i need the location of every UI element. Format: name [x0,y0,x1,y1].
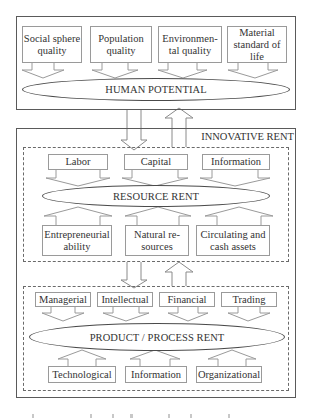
input-label: Managerial [39,294,87,306]
input-label: Material standard of life [228,27,286,63]
input-label: Intellectual [101,294,148,306]
input-label: Information [211,156,261,168]
input-label: Technological [52,369,111,381]
input-box-natural-resources: Natural re-sources [125,225,189,256]
input-box-information: Information [202,154,270,170]
cut-off-caption [90,414,92,418]
input-label: Organizational [198,369,260,381]
human-potential-ellipse: HUMAN POTENTIAL [22,78,290,101]
cut-off-caption [168,414,170,418]
input-label: Labor [65,156,90,168]
cut-off-caption [228,414,230,418]
ellipse-title: RESOURCE RENT [113,191,199,202]
input-box-labor: Labor [48,154,108,170]
input-box-information-product: Information [125,366,187,383]
input-label: Trading [233,294,266,306]
input-box-population-quality: Population quality [90,26,152,63]
input-label: Financial [167,294,206,306]
ellipse-title: HUMAN POTENTIAL [105,84,207,95]
cut-off-caption [32,414,34,418]
input-label: Information [131,369,181,381]
input-box-material-standard-of-life: Material standard of life [227,26,287,63]
input-box-environmental-quality: Environmen-tal quality [158,26,222,63]
ellipse-title: PRODUCT / PROCESS RENT [90,332,225,343]
input-label: Circulating and cash assets [197,229,269,253]
input-label: Entrepreneurial ability [43,229,111,253]
input-label: Environmen-tal quality [159,33,221,57]
input-box-circulating-and-cash-assets: Circulating and cash assets [196,225,270,256]
input-label: Natural re-sources [126,229,188,253]
cut-off-caption [130,414,133,418]
input-box-financial: Financial [159,292,215,307]
resource-rent-ellipse: RESOURCE RENT [42,185,270,207]
input-box-capital: Capital [124,154,188,170]
input-box-technological: Technological [48,366,116,383]
input-label: Population quality [91,33,151,57]
cut-off-caption [112,414,114,418]
input-box-managerial: Managerial [35,292,91,307]
input-box-entrepreneurial-ability: Entrepreneurial ability [42,225,112,256]
input-box-organizational: Organizational [196,366,262,383]
input-box-social-sphere-quality: Social sphere quality [22,26,82,63]
input-box-intellectual: Intellectual [97,292,153,307]
input-label: Capital [141,156,171,168]
product-process-rent-ellipse: PRODUCT / PROCESS RENT [29,323,285,351]
input-label: Social sphere quality [23,33,81,57]
cut-off-caption [190,414,192,418]
innovative-rent-title: INNOVATIVE RENT [200,131,294,142]
input-box-trading: Trading [221,292,277,307]
